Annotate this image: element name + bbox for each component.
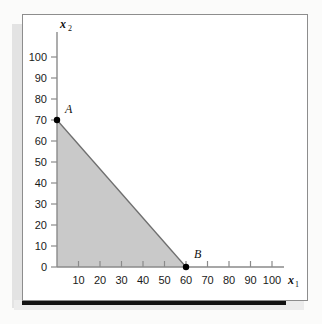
y-axis-ticks [51, 57, 57, 267]
vertex-a-marker [54, 117, 60, 123]
x-axis-label-base: x [287, 273, 294, 287]
y-tick-label: 20 [35, 219, 47, 231]
y-tick-label: 60 [35, 135, 47, 147]
x-axis-label-subscript: 1 [295, 280, 299, 289]
figure-page: 0 10 20 30 40 50 60 70 80 90 100 10 20 3… [0, 0, 322, 324]
x-tick-label: 40 [137, 274, 149, 286]
x-tick-label: 70 [201, 274, 213, 286]
y-tick-label: 90 [35, 72, 47, 84]
y-tick-label: 50 [35, 156, 47, 168]
y-tick-label: 70 [35, 114, 47, 126]
linear-programming-plot: 0 10 20 30 40 50 60 70 80 90 100 10 20 3… [22, 14, 308, 301]
y-tick-labels: 0 10 20 30 40 50 60 70 80 90 100 [29, 51, 47, 273]
vertex-a-label: A [64, 102, 73, 116]
vertex-b-label: B [194, 247, 202, 261]
y-tick-label: 10 [35, 240, 47, 252]
vertex-b-marker [183, 264, 189, 270]
y-tick-label: 0 [41, 261, 47, 273]
x-tick-label: 10 [72, 274, 84, 286]
y-axis-label-subscript: 2 [68, 24, 72, 33]
y-tick-label: 100 [29, 51, 47, 63]
x-tick-label: 60 [180, 274, 192, 286]
x-axis-label: x 1 [287, 273, 299, 289]
y-tick-label: 30 [35, 198, 47, 210]
x-tick-labels: 10 20 30 40 50 60 70 80 90 100 [72, 274, 281, 286]
y-tick-label: 80 [35, 93, 47, 105]
x-tick-label: 30 [115, 274, 127, 286]
y-tick-label: 40 [35, 177, 47, 189]
x-tick-label: 100 [263, 274, 281, 286]
x-tick-label: 80 [223, 274, 235, 286]
y-axis-label: x 2 [59, 17, 72, 33]
y-axis-label-base: x [59, 17, 66, 31]
x-tick-label: 90 [244, 274, 256, 286]
x-tick-label: 20 [94, 274, 106, 286]
x-tick-label: 50 [158, 274, 170, 286]
